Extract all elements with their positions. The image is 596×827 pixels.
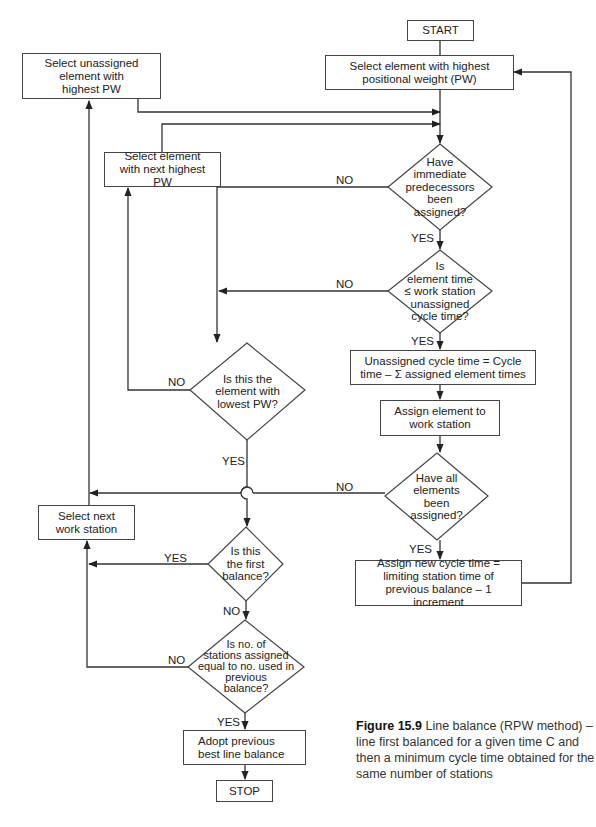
no-label-lowest-pw: NO [168, 376, 185, 388]
no-label-all-assigned: NO [336, 481, 353, 493]
adopt-previous-balance-box: Adopt previous best line balance [183, 730, 306, 765]
no-label-predecessors: NO [336, 174, 353, 186]
assign-element-box: Assign element to work station [380, 400, 500, 436]
figure-number: Figure 15.9 [356, 719, 422, 733]
start-terminal: START [407, 20, 474, 41]
yes-label-all-assigned: YES [409, 543, 432, 555]
select-next-highest-box: Select element with next highest PW [104, 152, 221, 187]
yes-label-first-balance: YES [164, 552, 187, 564]
no-label-stations-equal: NO [168, 654, 185, 666]
select-next-station-box: Select next work station [38, 505, 135, 540]
select-unassigned-highest-box: Select unassigned element with highest P… [22, 53, 161, 99]
decision-stations-equal: Is no. of stations assigned equal to no.… [188, 620, 304, 713]
no-label-element-time: NO [336, 278, 353, 290]
unassigned-cycle-time-box: Unassigned cycle time = Cycle time – Σ a… [350, 350, 536, 385]
decision-element-time-fits: Is element time ≤ work station unassigne… [388, 250, 492, 333]
no-label-first-balance: NO [223, 605, 240, 617]
figure-caption: Figure 15.9 Line balance (RPW method) – … [356, 718, 596, 782]
yes-label-lowest-pw: YES [222, 455, 245, 467]
assign-new-cycle-time-box: Assign new cycle time = limiting station… [355, 560, 522, 606]
decision-first-balance: Is this the first balance? [208, 527, 283, 601]
decision-lowest-pw: Is this the element with lowest PW? [190, 343, 305, 440]
decision-predecessors-assigned: Have immediate predecessors been assigne… [388, 144, 492, 230]
yes-label-element-time: YES [411, 335, 434, 347]
select-highest-pw-box: Select element with highest positional w… [325, 55, 514, 90]
stop-terminal: STOP [216, 780, 273, 802]
yes-label-predecessors: YES [411, 232, 434, 244]
yes-label-stations-equal: YES [217, 716, 240, 728]
decision-all-assigned: Have all elements been assigned? [385, 453, 488, 540]
